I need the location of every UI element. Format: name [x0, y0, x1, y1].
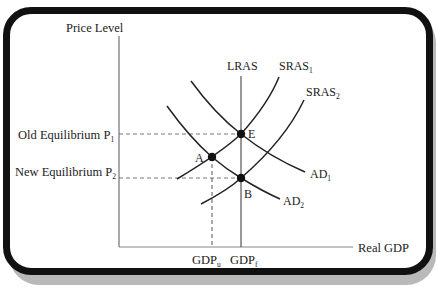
lras-label: LRAS: [227, 59, 258, 73]
point-a: [208, 153, 216, 161]
ad-as-diagram: Price Level Real GDP LRAS SRAS1 SRAS2 AD…: [0, 0, 437, 289]
x-axis-label: Real GDP: [358, 241, 409, 255]
sras2-curve: [201, 100, 304, 204]
gdp-f-label: GDPf: [230, 253, 258, 269]
point-a-label: A: [195, 151, 204, 165]
new-equilibrium-label: New Equilibrium P2: [15, 165, 116, 181]
ad2-curve: [167, 106, 280, 199]
y-axis-label: Price Level: [66, 21, 124, 35]
point-e: [237, 130, 245, 138]
sras1-label: SRAS1: [279, 59, 313, 75]
point-b: [237, 174, 245, 182]
point-b-label: B: [244, 187, 252, 201]
point-e-label: E: [248, 127, 255, 141]
sras1-curve: [177, 77, 279, 179]
sras2-label: SRAS2: [306, 85, 340, 101]
ad2-label: AD2: [283, 194, 304, 210]
gdp-u-label: GDPu: [192, 253, 221, 269]
ad1-label: AD1: [310, 167, 331, 183]
old-equilibrium-label: Old Equilibrium P1: [18, 128, 114, 144]
